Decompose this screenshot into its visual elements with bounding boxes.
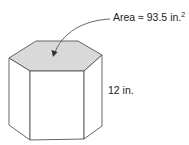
area-label-text: Area ≈ 93.5 in. (113, 11, 181, 23)
left-side-face (9, 58, 30, 140)
area-label: Area ≈ 93.5 in.2 (113, 11, 185, 23)
area-label-exponent: 2 (181, 11, 185, 18)
height-label: 12 in. (108, 85, 134, 96)
hexagonal-prism-diagram: Area ≈ 93.5 in.2 12 in. (0, 0, 189, 145)
front-side-face (30, 71, 84, 140)
